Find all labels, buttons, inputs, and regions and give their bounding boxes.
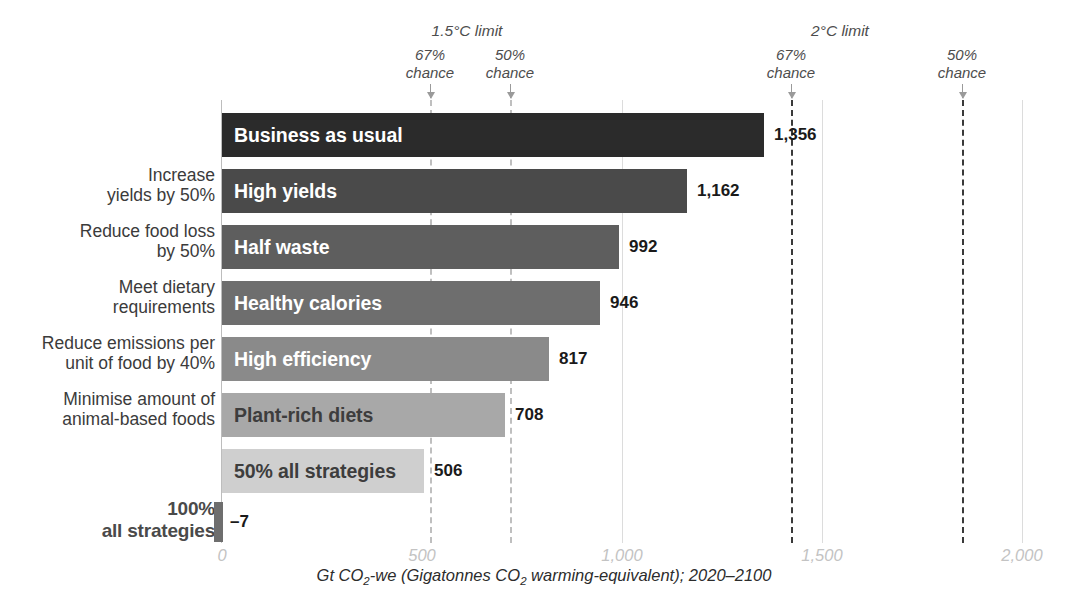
category-label-line1: Meet dietary	[5, 277, 215, 297]
bar-value-label: 992	[629, 225, 657, 269]
table-row: Reduce emissions per unit of food by 40%…	[0, 337, 1088, 381]
chance-word-15-50: chance	[450, 64, 570, 82]
x-axis-label-post: warming-equivalent); 2020–2100	[527, 566, 772, 584]
table-row: Business as usual 1,356	[0, 113, 1088, 157]
x-tick-1000: 1,000	[601, 546, 642, 565]
bar-value-label: –7	[230, 502, 249, 542]
bar-100pct-all-strategies[interactable]	[214, 502, 223, 542]
category-label-line1: Increase	[5, 165, 215, 185]
table-row: 100% all strategies –7	[0, 500, 1088, 544]
bar-label: Plant-rich diets	[222, 404, 373, 427]
category-label-line2: unit of food by 40%	[5, 353, 215, 373]
limit-title-15: 1.5°C limit	[397, 22, 537, 40]
arrow-down-icon-2-50	[962, 84, 963, 98]
bar-value-label: 506	[434, 449, 462, 493]
category-label-line1: 100%	[5, 498, 215, 520]
category-label-increase-yields: Increase yields by 50%	[5, 165, 215, 206]
category-label-line2: by 50%	[5, 241, 215, 261]
bar-value-label: 946	[610, 281, 638, 325]
bar-value-label: 817	[559, 337, 587, 381]
bar-healthy-calories[interactable]: Healthy calories	[222, 281, 600, 325]
chance-pct-2-50: 50%	[902, 46, 1022, 64]
bar-value-label: 708	[515, 393, 543, 437]
category-label-100pct-all-strategies: 100% all strategies	[5, 498, 215, 542]
chance-word-2-67: chance	[731, 64, 851, 82]
table-row: Reduce food loss by 50% Half waste 992	[0, 225, 1088, 269]
category-label-line2: yields by 50%	[5, 185, 215, 205]
bar-half-waste[interactable]: Half waste	[222, 225, 619, 269]
bar-label: Half waste	[222, 236, 329, 259]
category-label-meet-dietary: Meet dietary requirements	[5, 277, 215, 318]
table-row: Increase yields by 50% High yields 1,162	[0, 169, 1088, 213]
bar-business-as-usual[interactable]: Business as usual	[222, 113, 764, 157]
category-label-line1: Reduce emissions per	[5, 333, 215, 353]
x-axis-label-pre: Gt CO	[317, 566, 364, 584]
arrow-down-icon-15-67	[430, 84, 431, 98]
x-tick-2000: 2,000	[1001, 546, 1042, 565]
category-label-reduce-emissions: Reduce emissions per unit of food by 40%	[5, 333, 215, 374]
table-row: Meet dietary requirements Healthy calori…	[0, 281, 1088, 325]
bar-value-label: 1,356	[774, 113, 817, 157]
bar-value-label: 1,162	[697, 169, 740, 213]
annotation-2c-limit-title: 2°C limit	[770, 22, 910, 40]
bar-label: Healthy calories	[222, 292, 382, 315]
bar-high-efficiency[interactable]: High efficiency	[222, 337, 549, 381]
bar-label: High efficiency	[222, 348, 371, 371]
annotation-1.5c-limit-title: 1.5°C limit	[397, 22, 537, 40]
annotation-2c-50-chance: 50% chance	[902, 46, 1022, 82]
bar-label: 50% all strategies	[222, 460, 396, 483]
category-label-line2: requirements	[5, 297, 215, 317]
chance-pct-2-67: 67%	[731, 46, 851, 64]
category-label-line1: Reduce food loss	[5, 221, 215, 241]
arrow-down-icon-15-50	[510, 84, 511, 98]
chance-pct-15-50: 50%	[450, 46, 570, 64]
bar-50pct-all-strategies[interactable]: 50% all strategies	[222, 449, 424, 493]
limit-title-2: 2°C limit	[770, 22, 910, 40]
category-label-line1: Minimise amount of	[5, 389, 215, 409]
bar-high-yields[interactable]: High yields	[222, 169, 687, 213]
category-label-line2: animal-based foods	[5, 409, 215, 429]
bar-label: High yields	[222, 180, 337, 203]
category-label-reduce-food-loss: Reduce food loss by 50%	[5, 221, 215, 262]
x-tick-1500: 1,500	[801, 546, 842, 565]
bar-label: Business as usual	[222, 124, 402, 147]
annotation-2c-67-chance: 67% chance	[731, 46, 851, 82]
category-label-minimise-animal: Minimise amount of animal-based foods	[5, 389, 215, 430]
arrow-down-icon-2-67	[791, 84, 792, 98]
bar-plant-rich-diets[interactable]: Plant-rich diets	[222, 393, 505, 437]
x-tick-500: 500	[408, 546, 436, 565]
category-label-line2: all strategies	[5, 520, 215, 542]
x-axis-label-mid: -we (Gigatonnes CO	[370, 566, 520, 584]
annotation-1.5c-50-chance: 50% chance	[450, 46, 570, 82]
x-tick-0: 0	[217, 546, 226, 565]
x-axis-label: Gt CO2-we (Gigatonnes CO2 warming-equiva…	[0, 566, 1088, 587]
table-row: Minimise amount of animal-based foods Pl…	[0, 393, 1088, 437]
chance-word-2-50: chance	[902, 64, 1022, 82]
table-row: 50% all strategies 506	[0, 449, 1088, 493]
chart-container: 1.5°C limit 67% chance 50% chance 2°C li…	[0, 0, 1088, 616]
